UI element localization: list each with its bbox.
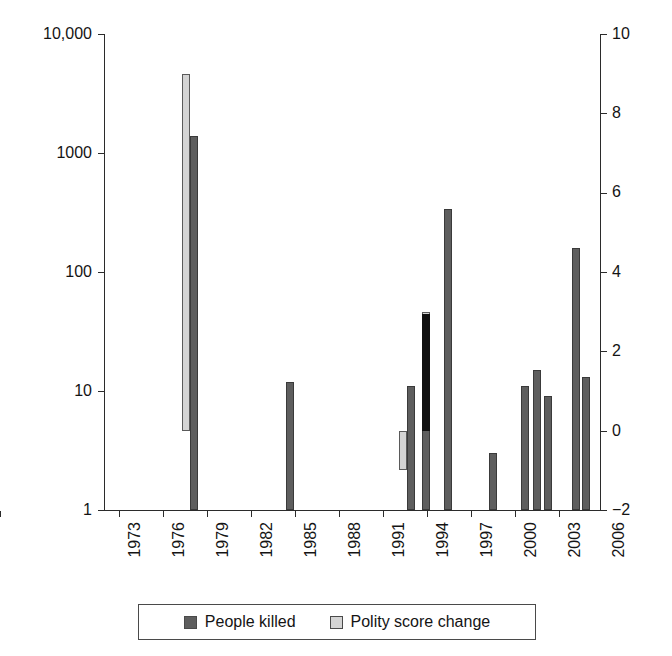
right-axis-tick: [601, 113, 607, 114]
people-killed-bar: [544, 396, 552, 510]
dark-gray-swatch-icon: [184, 616, 197, 629]
x-axis-tick: [251, 511, 252, 517]
x-axis-label: 1991: [391, 522, 407, 586]
x-axis-label: 2003: [567, 522, 583, 586]
people-killed-bar: [582, 377, 590, 510]
light-gray-swatch-icon: [330, 616, 343, 629]
legend-label: People killed: [205, 614, 296, 630]
x-axis-tick: [207, 511, 208, 517]
right-axis-tick-label: 0: [612, 423, 672, 439]
people-killed-bar: [444, 209, 452, 510]
people-killed-bar: [286, 382, 294, 510]
bars-layer: [104, 34, 600, 510]
x-axis-tick: [119, 511, 120, 517]
x-axis-tick: [339, 511, 340, 517]
legend-entry-polity-score-change: Polity score change: [330, 614, 491, 630]
right-axis-tick: [601, 193, 607, 194]
right-axis-tick-label: −2: [612, 502, 672, 518]
right-axis-tick-label: 10: [612, 26, 672, 42]
left-axis-tick-label: 1: [0, 502, 92, 518]
left-axis-labels: 10,000 1000 100 10 1: [0, 0, 92, 656]
x-axis-tick: [383, 511, 384, 517]
x-axis-label: 1997: [479, 522, 495, 586]
x-axis-label: 1973: [127, 522, 143, 586]
people-killed-bar: [190, 136, 198, 510]
left-axis-tick-label: 10,000: [0, 26, 92, 42]
polity-score-bar: [182, 74, 190, 431]
x-axis-label: 1976: [171, 522, 187, 586]
bottom-axis-line: [104, 510, 601, 511]
right-axis-tick-label: 6: [612, 184, 672, 200]
left-axis-tick-label: 100: [0, 264, 92, 280]
x-axis-tick: [471, 511, 472, 517]
left-axis-tick-label: 1000: [0, 145, 92, 161]
right-axis-tick-label: 8: [612, 105, 672, 121]
right-axis-tick: [601, 510, 607, 511]
people-killed-bar: [407, 386, 415, 510]
x-axis-label: 1979: [215, 522, 231, 586]
x-axis-tick: [163, 511, 164, 517]
legend-label: Polity score change: [351, 614, 491, 630]
x-axis-tick: [295, 511, 296, 517]
left-axis-tick: [98, 510, 104, 511]
polity-score-bar: [399, 431, 407, 471]
x-axis-label: 2006: [611, 522, 627, 586]
x-axis-tick: [427, 511, 428, 517]
chart-figure: 10,000 1000 100 10 1 10 8 6 4 2 0 −2 197…: [0, 0, 672, 656]
right-axis-tick: [601, 272, 607, 273]
x-axis-tick: [0, 511, 1, 517]
x-axis-tick: [559, 511, 560, 517]
x-axis-tick: [515, 511, 516, 517]
x-axis-label: 1988: [347, 522, 363, 586]
x-axis-label: 1994: [435, 522, 451, 586]
left-axis-tick-label: 10: [0, 383, 92, 399]
people-killed-bar: [533, 370, 541, 510]
x-axis-label: 1982: [259, 522, 275, 586]
chart-legend: People killed Polity score change: [138, 604, 536, 640]
people-killed-bar: [521, 386, 529, 510]
right-axis-tick: [601, 351, 607, 352]
people-killed-bar: [489, 453, 497, 510]
x-axis-label: 2000: [523, 522, 539, 586]
legend-entry-people-killed: People killed: [184, 614, 296, 630]
right-axis-tick: [601, 431, 607, 432]
plot-area: [104, 34, 600, 510]
x-axis-label: 1985: [303, 522, 319, 586]
people-killed-bar: [572, 248, 580, 510]
right-axis-tick-label: 4: [612, 264, 672, 280]
right-axis-tick: [601, 34, 607, 35]
right-axis-tick-label: 2: [612, 343, 672, 359]
overlap-bar-segment: [422, 314, 430, 430]
